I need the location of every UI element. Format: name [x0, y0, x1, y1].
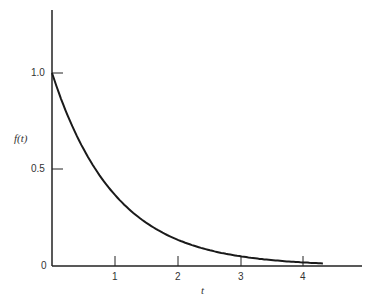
origin-label: 0 — [41, 261, 47, 271]
x-tick-label-2: 2 — [175, 272, 181, 282]
y-tick-label-1: 1.0 — [31, 68, 45, 78]
decay-curve — [52, 73, 323, 263]
x-tick-label-3: 3 — [238, 272, 244, 282]
plot-area — [0, 0, 373, 296]
x-axis-label: t — [201, 285, 204, 296]
y-axis-label: f(t) — [14, 133, 27, 144]
x-tick-label-1: 1 — [112, 272, 118, 282]
chart-container: 1.0 0.5 0 1 2 3 4 f(t) t — [0, 0, 373, 296]
x-tick-label-4: 4 — [300, 272, 306, 282]
y-tick-label-0.5: 0.5 — [31, 164, 45, 174]
